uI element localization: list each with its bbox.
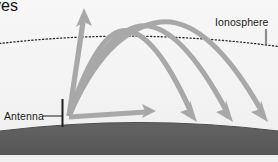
ionosphere-label: Ionosphere (215, 16, 269, 28)
clipped-title-text: ves (0, 0, 18, 15)
radio-propagation-figure: ves Ionosphere Antenna (0, 0, 278, 162)
earth-ground (0, 123, 278, 156)
figure-footer-strip (0, 155, 278, 162)
antenna-label: Antenna (4, 110, 44, 122)
